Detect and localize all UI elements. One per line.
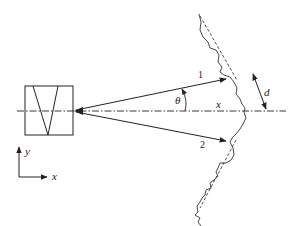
mean-surface-line-lower (200, 140, 236, 208)
distance-x-label: x (215, 98, 221, 110)
measurement-geometry-diagram: 1 2 θ x d y x (0, 0, 299, 226)
mean-surface-line (200, 16, 237, 80)
angle-theta-label: θ (175, 94, 181, 106)
axis-x-label: x (51, 170, 57, 182)
coordinate-axes (19, 147, 47, 177)
ray-2-label: 2 (200, 139, 205, 150)
v-symbol-icon (33, 86, 58, 135)
ray-2 (76, 112, 226, 141)
ray-1-label: 1 (198, 69, 203, 80)
displacement-d-label: d (264, 86, 270, 98)
ray-1 (76, 79, 226, 110)
sensor-box (25, 86, 73, 135)
rough-surface-profile (195, 14, 246, 226)
sensor-arrowhead-icon (74, 107, 83, 115)
angle-arc (182, 89, 186, 111)
diagram-canvas: 1 2 θ x d y x (0, 0, 299, 226)
axis-y-label: y (24, 145, 30, 157)
